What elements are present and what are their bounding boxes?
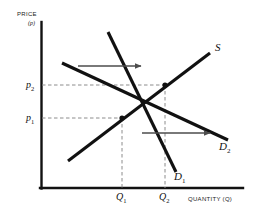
tick-label-p1: p1 [26,112,34,125]
tick-label-q2: Q2 [159,191,169,204]
curve-label-demand-2: D2 [219,140,230,155]
tick-label-p2: p2 [26,79,34,92]
equilibrium-point-2 [162,82,167,87]
tick-label-q1: Q1 [116,191,126,204]
supply-demand-diagram: PRICE (p) QUANTITY (Q) p2 p1 Q1 Q2 S D1 … [0,0,254,215]
y-axis-unit: (p) [28,20,35,26]
supply-curve [68,53,210,161]
demand-curve-1 [108,32,176,172]
x-axis-title: QUANTITY (Q) [188,196,232,202]
y-axis-title: PRICE [17,11,37,17]
curve-label-supply: S [215,41,221,53]
demand-curve-2 [62,63,228,140]
equilibrium-point-1 [119,115,124,120]
diagram-canvas [0,0,254,215]
curve-label-demand-1: D1 [174,170,185,185]
